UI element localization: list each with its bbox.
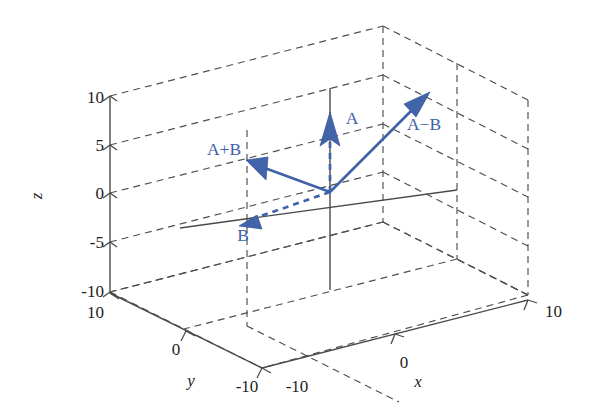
x-axis-label: x <box>413 372 422 391</box>
y-axis-label: y <box>185 371 195 390</box>
x-tick-0: 0 <box>400 353 409 372</box>
y-tick-10: 10 <box>87 303 104 322</box>
vector-A-minus-B <box>330 92 430 192</box>
vector-label-A-minus-B: A−B <box>407 114 441 134</box>
grid-back-left-wall <box>110 26 383 326</box>
x-tick-neg10: -10 <box>286 377 309 396</box>
vector-label-A: A <box>346 108 359 128</box>
vector-A-plus-B <box>246 157 330 192</box>
3d-vector-plot: 10 5 0 -5 -10 10 0 -10 -10 0 10 z y x A … <box>0 0 602 420</box>
z-tick-neg5: -5 <box>90 233 104 252</box>
vector-label-A-plus-B: A+B <box>207 139 241 159</box>
z-axis-label: z <box>27 192 46 200</box>
y-tick-0: 0 <box>172 340 181 359</box>
vector-label-B: B <box>237 225 249 245</box>
z-tick-10: 10 <box>87 88 104 107</box>
grid-back-right-wall <box>383 26 528 295</box>
z-tick-5: 5 <box>96 136 105 155</box>
axis-y <box>110 293 271 378</box>
figure-canvas: 10 5 0 -5 -10 10 0 -10 -10 0 10 z y x A … <box>0 0 602 420</box>
x-axis-tick-labels: -10 0 10 <box>286 302 562 396</box>
z-tick-neg10: -10 <box>81 282 104 301</box>
axis-z <box>103 96 117 297</box>
z-axis-tick-labels: 10 5 0 -5 -10 <box>81 88 104 301</box>
grid-floor <box>110 222 528 402</box>
z-tick-0: 0 <box>96 184 105 203</box>
x-tick-10: 10 <box>545 302 562 321</box>
y-tick-neg10: -10 <box>236 377 259 396</box>
